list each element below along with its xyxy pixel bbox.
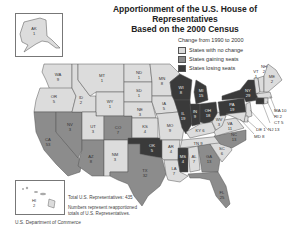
callout-MD: MD 8 xyxy=(254,134,265,139)
state-seats-TX: 32 xyxy=(143,173,148,178)
state-label-KY: KY 6 xyxy=(195,128,205,133)
state-seats-PA: 19 xyxy=(230,107,235,112)
callout-MA: MA 10 xyxy=(274,108,287,113)
us-map: WA9 OR5 CA53 NV3 ID2 MT1 WY1 UT3 CO7 AZ8… xyxy=(0,0,300,241)
state-seats-VA: 11 xyxy=(228,126,233,131)
state-seats-FL: 25 xyxy=(220,195,225,200)
state-NJ[interactable] xyxy=(246,102,252,118)
callout-NJ: NJ 13 xyxy=(268,127,280,132)
state-seats-OH: 18 xyxy=(206,113,211,118)
state-label-TN: TN 9 xyxy=(193,141,203,146)
state-RI[interactable] xyxy=(264,98,268,104)
state-CT[interactable] xyxy=(256,98,264,104)
state-seats-NC: 13 xyxy=(232,137,237,142)
state-seats-CA: 53 xyxy=(46,142,51,147)
state-seats-MI: 15 xyxy=(199,93,204,98)
callout-RI: RI 2 xyxy=(274,114,283,119)
callout-CT: CT 5 xyxy=(274,120,284,125)
state-seats-GA: 13 xyxy=(207,159,212,164)
state-seats-IL: 19 xyxy=(181,116,186,121)
state-seats-NY: 29 xyxy=(246,93,251,98)
callout-DE: DE 1 xyxy=(256,127,266,132)
